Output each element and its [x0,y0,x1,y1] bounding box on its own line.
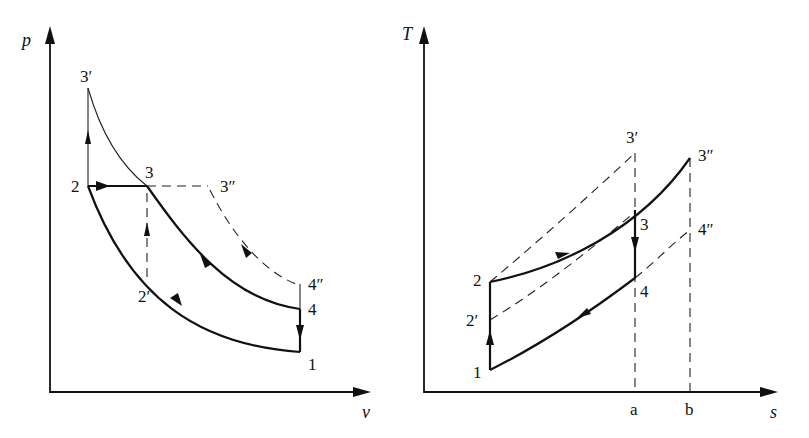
process-2-3pp [490,158,690,282]
arrow-down-icon [296,325,304,340]
point-1-label: 1 [473,363,482,382]
point-2-label: 2 [473,271,482,290]
point-3-label: 3 [640,215,649,234]
arrow-down-left-icon [577,308,591,318]
process-4-4pp [635,230,690,278]
arrow-up-icon [144,222,150,236]
point-1-label: 1 [308,355,317,374]
tick-b-label: b [685,400,694,419]
ts-diagram: T s a b 3′ 3″ 3 4″ 2 4 2′ 1 [402,24,778,422]
point-4pp-label: 4″ [698,220,714,239]
arrow-down-icon [631,237,639,252]
arrow-up-icon [486,330,494,345]
p-axis-label: p [20,30,31,50]
s-axis-label: s [770,402,777,422]
arrow-right-icon [96,181,110,191]
point-3-label: 3 [145,163,154,182]
v-axis-label: v [362,402,370,422]
v-axis-arrow-icon [353,387,371,397]
process-2-3p [490,153,635,282]
pv-diagram: p v 3′ 2 3 3″ 4″ 4 1 2′ [20,26,371,422]
process-3-4 [147,186,300,309]
point-4pp-label: 4″ [308,275,324,294]
s-axis-arrow-icon [760,387,778,397]
arrow-up-left-icon [170,293,182,306]
tick-a-label: a [630,400,638,419]
t-axis-arrow-icon [419,26,429,44]
process-1-2 [88,186,300,352]
point-3p-label: 3′ [626,128,638,147]
point-4-label: 4 [640,282,649,301]
arrow-down-right-icon [200,254,212,268]
point-3pp-label: 3″ [698,146,714,165]
process-2p-3 [490,212,635,320]
point-2p-label: 2′ [466,311,478,330]
process-4-1 [490,278,635,370]
arrow-up-icon [85,130,91,144]
t-axis-label: T [402,24,414,44]
p-axis-arrow-icon [45,26,55,44]
cycle-diagrams: p v 3′ 2 3 3″ 4″ 4 1 2′ [0,0,809,438]
point-4-label: 4 [308,300,317,319]
process-3pp-4pp [210,190,296,284]
point-3pp-label: 3″ [220,177,236,196]
process-3p-3 [88,88,147,186]
point-2-label: 2 [71,177,80,196]
point-2p-label: 2′ [138,287,150,306]
point-3p-label: 3′ [80,67,92,86]
